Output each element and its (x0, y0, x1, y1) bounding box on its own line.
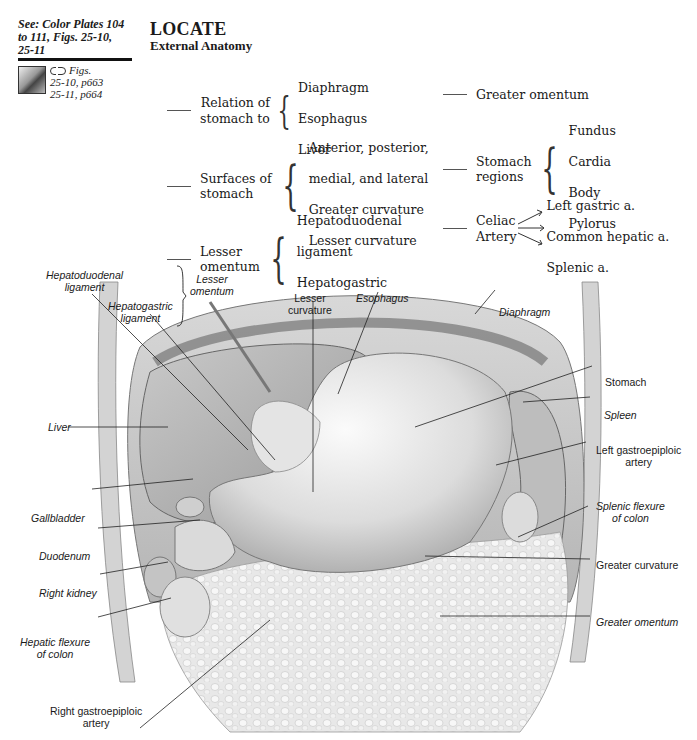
callout-splenic-flexure: Splenic flexure of colon (596, 500, 665, 524)
brace: { (282, 178, 299, 194)
item-label: Relation of stomach to (200, 95, 270, 126)
page-title: LOCATE (150, 19, 226, 40)
callout-lesser-curvature: Lesser curvature (288, 292, 332, 316)
answer-blank[interactable] (167, 186, 191, 187)
callout-duodenum: Duodenum (39, 550, 90, 562)
anatomy-thumbnail-icon (18, 66, 46, 94)
callout-hepatogastric-ligament: Hepatogastric ligament (108, 300, 173, 324)
answer-blank[interactable] (167, 110, 191, 111)
callout-right-gastroepiploic-artery: Right gastroepiploic artery (50, 705, 142, 729)
callout-greater-omentum: Greater omentum (596, 616, 678, 628)
callout-esophagus: Esophagus (356, 292, 409, 304)
item-label: Stomach regions (476, 154, 531, 185)
callout-lesser-omentum: Lesser omentum (190, 273, 234, 297)
brace: { (542, 161, 559, 177)
page-subtitle: External Anatomy (150, 38, 252, 54)
answer-blank[interactable] (443, 94, 467, 95)
callout-liver: Liver (48, 421, 71, 433)
item-label: Greater omentum (476, 87, 589, 103)
divider (18, 58, 132, 61)
stomach-anatomy-illustration (0, 262, 697, 740)
answer-blank[interactable] (443, 169, 467, 170)
callout-hepatoduodenal-ligament: Hepatoduodenal ligament (46, 269, 123, 293)
callout-diaphragm: Diaphragm (499, 306, 550, 318)
item-label: Celiac Artery (476, 213, 516, 244)
callout-hepatic-flexure: Hepatic flexure of colon (20, 636, 90, 660)
checklist-item-greater-omentum: Greater omentum (443, 87, 589, 103)
figs-label: Figs. (69, 64, 91, 76)
callout-right-kidney: Right kidney (39, 587, 97, 599)
see-reference: See: Color Plates 104 to 111, Figs. 25-1… (18, 18, 130, 57)
answer-blank[interactable] (167, 259, 191, 260)
callout-gallbladder: Gallbladder (31, 512, 85, 524)
callout-spleen: Spleen (604, 409, 637, 421)
brace: { (277, 103, 290, 119)
fig-ref: 25-11, p664 (50, 88, 102, 100)
answer-blank[interactable] (443, 228, 467, 229)
link-icon (50, 67, 66, 75)
callout-stomach: Stomach (605, 376, 646, 388)
fig-ref: 25-10, p663 (50, 76, 103, 88)
callout-greater-curvature: Greater curvature (596, 559, 678, 571)
figure-references: Figs. 25-10, p663 25-11, p664 (50, 64, 103, 100)
callout-left-gastroepiploic-artery: Left gastroepiploic artery (596, 444, 681, 468)
